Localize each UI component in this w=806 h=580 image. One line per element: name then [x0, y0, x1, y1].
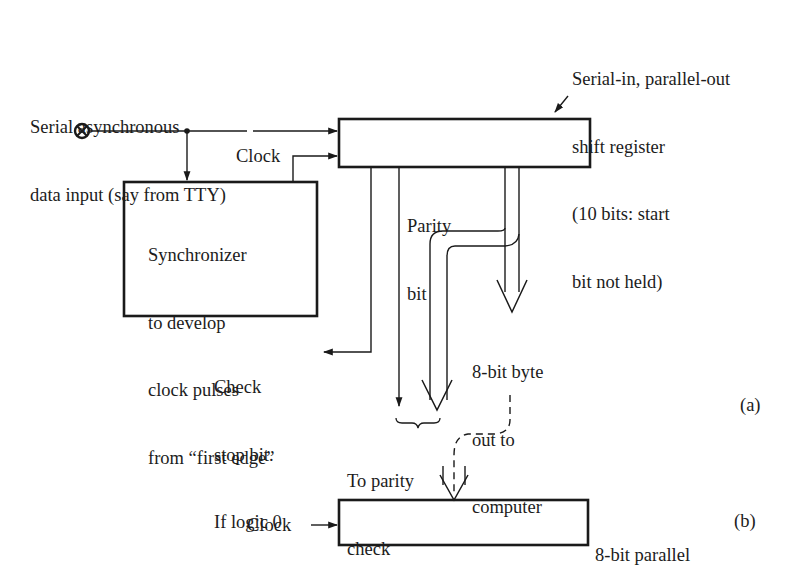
- stop-bit-label: Check stop bit. If logic 0 then timing (…: [214, 331, 299, 580]
- parity-check-label: To parity check circuitry: [347, 425, 414, 580]
- parity-bit-label-line: bit: [407, 283, 451, 306]
- shift-register-label-line: (10 bits: start: [572, 203, 730, 226]
- shift-register-label-line: bit not held): [572, 271, 730, 294]
- clock-top-label: Clock: [236, 145, 280, 168]
- parallel-register-label: 8-bit parallel register: [595, 499, 690, 580]
- clock-wire-top: [293, 156, 337, 182]
- shift-register-pointer: [555, 96, 568, 112]
- parity-bit-label-line: Parity: [407, 215, 451, 238]
- stop-bit-label-line: Check: [214, 376, 299, 399]
- byte-out-label-line: 8-bit byte: [472, 361, 543, 384]
- clock-bottom-label: Clock: [247, 514, 291, 537]
- synchronizer-label-line: Synchronizer: [148, 244, 274, 267]
- byte-out-label-line: out to: [472, 429, 543, 452]
- byte-out-label: 8-bit byte out to computer: [472, 316, 543, 541]
- input-label-line: Serial asynchronous: [30, 116, 226, 139]
- shift-register-label-line: Serial-in, parallel-out: [572, 68, 730, 91]
- shift-register-box: [339, 119, 590, 167]
- byte-out-label-line: computer: [472, 496, 543, 519]
- panel-b-label: (b): [734, 510, 756, 533]
- stop-bit-wire: [324, 167, 371, 352]
- parity-check-label-line: To parity: [347, 470, 414, 493]
- shift-register-label-line: shift register: [572, 136, 730, 159]
- data-bus-to-computer: [497, 167, 527, 312]
- shift-register-label: Serial-in, parallel-out shift register (…: [572, 23, 730, 316]
- panel-a-label: (a): [740, 394, 761, 417]
- parity-bit-label: Parity bit: [407, 170, 451, 328]
- parity-check-label-line: check: [347, 538, 414, 561]
- parallel-register-label-line: 8-bit parallel: [595, 544, 690, 567]
- stop-bit-label-line: stop bit.: [214, 444, 299, 467]
